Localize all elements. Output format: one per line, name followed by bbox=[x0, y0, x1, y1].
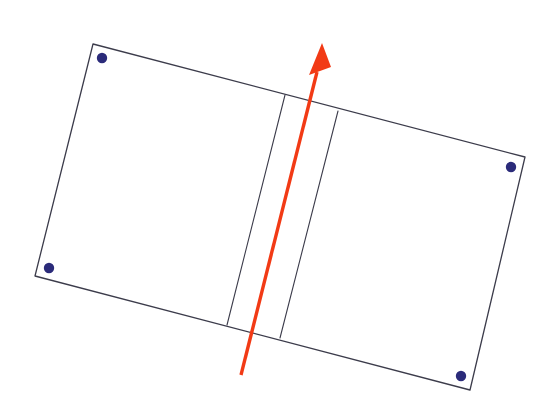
direction-arrow-head bbox=[309, 43, 331, 75]
book-diagram bbox=[0, 0, 554, 411]
top-left-marker-dot bbox=[97, 53, 107, 63]
bottom-right-marker-dot bbox=[456, 371, 466, 381]
bottom-left-marker-dot bbox=[44, 263, 54, 273]
top-right-marker-dot bbox=[506, 162, 516, 172]
figure-canvas bbox=[0, 0, 554, 411]
